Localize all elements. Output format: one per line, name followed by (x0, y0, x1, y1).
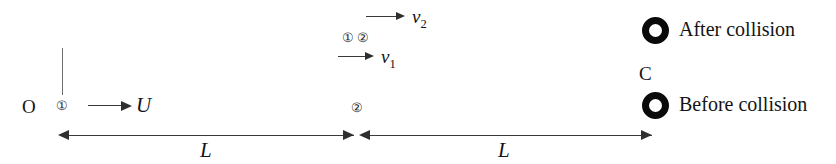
right-dimension-line (362, 135, 652, 136)
after-collision-label: After collision (679, 19, 795, 39)
point-c-label: C (639, 64, 652, 83)
pair-ball-2-marker: ② (352, 27, 373, 48)
velocity-u-arrow-shaft (88, 105, 124, 106)
velocity-v1-arrowhead (365, 52, 374, 60)
velocity-u-arrowhead (121, 101, 132, 111)
pendulum-hanger-line (62, 48, 63, 95)
velocity-v1-arrow-shaft (338, 56, 368, 57)
velocity-v2-label: v2 (412, 7, 427, 30)
before-collision-label: Before collision (679, 94, 807, 114)
right-dimension-arrowhead-start (359, 130, 370, 140)
ball-2-marker: ② (346, 97, 368, 119)
collision-diagram: O ① U ① ② v2 v1 ② After collision C Befo… (0, 0, 836, 164)
velocity-v1-subscript: 1 (389, 57, 395, 71)
left-dimension-arrowhead-end (343, 130, 354, 140)
origin-label: O (22, 97, 36, 116)
right-dimension-label: L (498, 140, 510, 161)
after-collision-ring-icon (642, 17, 669, 44)
velocity-v1-label: v1 (381, 47, 396, 70)
velocity-v2-arrow-shaft (366, 16, 399, 17)
right-dimension-arrowhead-end (641, 130, 652, 140)
velocity-v2-arrowhead (396, 12, 405, 20)
left-dimension-arrowhead-start (58, 130, 69, 140)
velocity-u-label: U (136, 95, 151, 116)
ball-1-marker: ① (51, 95, 73, 117)
velocity-v2-subscript: 2 (420, 17, 426, 31)
left-dimension-line (62, 135, 354, 136)
left-dimension-label: L (200, 140, 212, 161)
before-collision-ring-icon (642, 92, 669, 119)
